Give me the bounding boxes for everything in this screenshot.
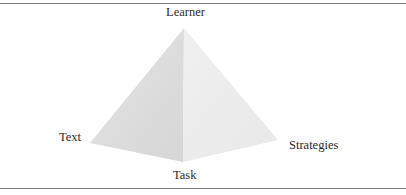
pyramid-right-face bbox=[183, 28, 278, 162]
right-label-strategies: Strategies bbox=[289, 139, 338, 152]
apex-label-learner: Learner bbox=[166, 6, 205, 19]
bottom-label-task: Task bbox=[173, 169, 196, 182]
pyramid-shape bbox=[0, 0, 406, 195]
pyramid-left-face bbox=[90, 28, 184, 162]
pyramid-figure: Learner Text Task Strategies bbox=[0, 0, 406, 195]
bottom-rule bbox=[0, 188, 406, 189]
left-label-text: Text bbox=[59, 131, 81, 144]
